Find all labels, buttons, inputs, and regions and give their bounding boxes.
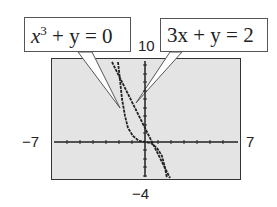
callout-text: 3x + y = 2	[167, 23, 254, 47]
callout-cubic-equation: x3 + y = 0	[24, 17, 131, 52]
xmax-label: 7	[246, 134, 254, 149]
callout-linear-equation: 3x + y = 2	[160, 18, 268, 52]
callout-left-pointer	[78, 52, 120, 108]
xmin-label: −7	[22, 134, 39, 149]
curve-cubic	[118, 62, 167, 178]
callout-right-pointer	[136, 52, 182, 103]
ymax-label: 10	[138, 38, 155, 53]
callout-rest: + y = 0	[47, 24, 113, 48]
ymin-label: −4	[132, 186, 149, 201]
callout-var: x	[31, 24, 40, 48]
